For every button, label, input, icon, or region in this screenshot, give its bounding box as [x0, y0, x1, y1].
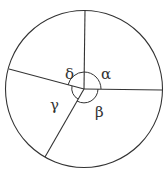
angle-arc-alpha	[84, 72, 101, 89]
radius-right	[84, 89, 162, 90]
angle-arc-gamma	[72, 86, 78, 99]
label-beta: β	[95, 103, 104, 121]
radius-top	[84, 10, 85, 89]
label-alpha: α	[101, 65, 111, 83]
label-gamma: γ	[50, 96, 59, 114]
circle-diagram: α β γ δ	[0, 0, 164, 169]
label-delta: δ	[65, 65, 74, 83]
